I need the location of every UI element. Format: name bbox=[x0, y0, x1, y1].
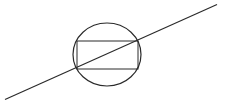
diagram-canvas bbox=[0, 0, 232, 104]
inscribed-rectangle bbox=[77, 41, 138, 69]
circle bbox=[73, 23, 141, 86]
